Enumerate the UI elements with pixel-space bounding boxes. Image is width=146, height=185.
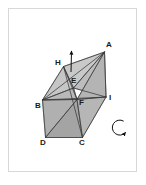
polyhedron-diagram	[0, 0, 146, 185]
vertex-label-e: E	[71, 77, 76, 85]
rotation-arrow	[112, 120, 125, 135]
vertex-label-d: D	[40, 139, 46, 147]
vertex-label-c: C	[79, 139, 85, 147]
edge-F-B	[43, 100, 78, 101]
axis-up-arrow	[71, 51, 72, 72]
vertex-label-f: F	[79, 99, 84, 107]
vertex-label-h: H	[55, 59, 61, 67]
vertex-label-b: B	[35, 102, 41, 110]
vertex-label-i: I	[109, 94, 111, 102]
vertex-label-a: A	[106, 41, 112, 49]
figure-root: ABCDEFHI	[0, 0, 146, 185]
